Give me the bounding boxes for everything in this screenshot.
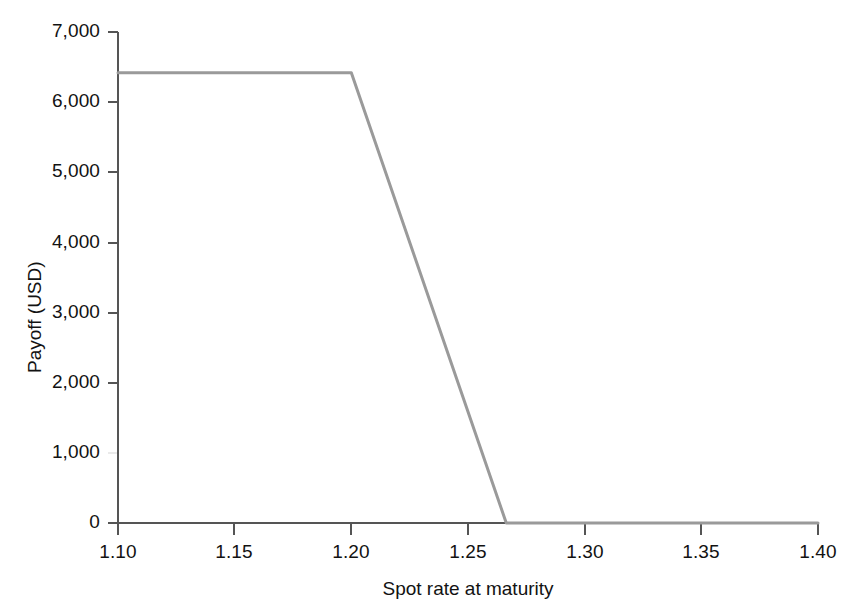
x-tick-label-1-25: 1.25 — [418, 541, 518, 563]
x-tick-label-1-20: 1.20 — [301, 541, 401, 563]
y-tick-label-3000: 3,000 — [8, 301, 100, 323]
y-tick-label-5000: 5,000 — [8, 160, 100, 182]
y-tick-label-0: 0 — [8, 511, 100, 533]
y-tick-label-1000: 1,000 — [8, 441, 100, 463]
y-tick-label-2000: 2,000 — [8, 371, 100, 393]
y-axis-title: Payoff (USD) — [24, 173, 46, 373]
y-tick-label-7000: 7,000 — [8, 20, 100, 42]
x-tick-label-1-15: 1.15 — [184, 541, 284, 563]
x-tick-marks — [118, 523, 818, 535]
payoff-chart: 7,000 6,000 5,000 4,000 3,000 2,000 1,00… — [0, 0, 857, 614]
x-axis-title: Spot rate at maturity — [268, 578, 668, 600]
x-tick-label-1-10: 1.10 — [68, 541, 168, 563]
x-tick-label-1-30: 1.30 — [535, 541, 635, 563]
y-tick-label-6000: 6,000 — [8, 90, 100, 112]
payoff-line — [118, 73, 818, 523]
x-tick-label-1-40: 1.40 — [768, 541, 857, 563]
y-tick-marks — [108, 32, 118, 523]
x-tick-label-1-35: 1.35 — [651, 541, 751, 563]
chart-canvas — [0, 0, 857, 614]
y-tick-label-4000: 4,000 — [8, 231, 100, 253]
